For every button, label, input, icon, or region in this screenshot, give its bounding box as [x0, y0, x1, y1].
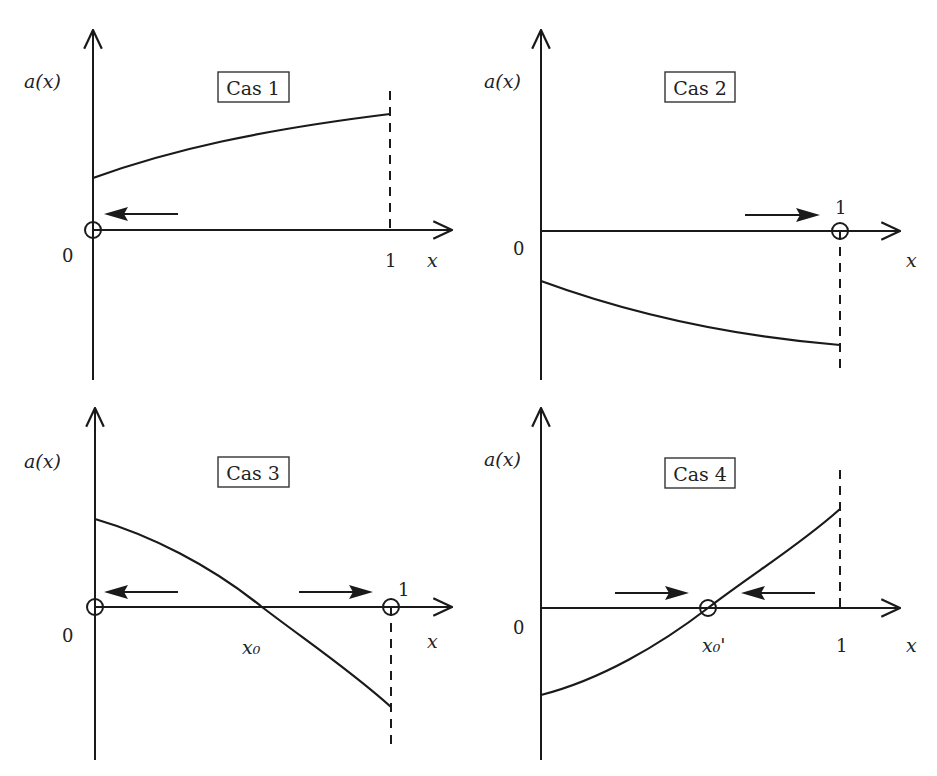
- case-title: Cas 3: [226, 462, 280, 484]
- x-axis-label: x: [427, 249, 438, 271]
- right-arrow-icon: [615, 586, 689, 600]
- x-axis-label: x: [906, 634, 917, 656]
- left-arrow-icon: [104, 585, 178, 599]
- panel-cas-3: Cas 3 a(x) 0 1 x₀ x: [24, 408, 452, 760]
- panel-cas-2: Cas 2 a(x) 0 1 x: [484, 30, 917, 380]
- a-of-x-curve: [93, 114, 390, 178]
- origin-label: 0: [513, 617, 524, 638]
- phase-diagram-figure: Cas 1 a(x) 0 1 x Cas 2 a(x) 0 1 x: [0, 0, 937, 776]
- a-of-x-curve: [541, 509, 840, 695]
- tick-one-label: 1: [385, 250, 396, 271]
- tick-one-label: 1: [836, 635, 847, 656]
- a-of-x-curve: [95, 519, 391, 707]
- origin-label: 0: [513, 238, 524, 259]
- left-arrow-icon: [104, 207, 178, 221]
- tick-one-label: 1: [398, 579, 409, 600]
- y-axis-label: a(x): [24, 70, 61, 92]
- y-axis-label: a(x): [484, 448, 521, 470]
- left-arrow-icon: [741, 586, 815, 600]
- right-arrow-icon: [745, 208, 820, 222]
- root-label: x₀: [242, 636, 261, 658]
- case-title: Cas 1: [226, 77, 280, 99]
- x-axis-label: x: [427, 630, 438, 652]
- case-title: Cas 2: [673, 77, 727, 99]
- case-title: Cas 4: [673, 463, 727, 485]
- y-axis-label: a(x): [484, 70, 521, 92]
- x-axis-label: x: [906, 249, 917, 271]
- panel-cas-1: Cas 1 a(x) 0 1 x: [24, 30, 452, 380]
- right-arrow-icon: [299, 585, 373, 599]
- y-axis-label: a(x): [24, 450, 61, 472]
- a-of-x-curve: [541, 281, 840, 345]
- root-label: x₀': [702, 634, 726, 656]
- tick-one-label: 1: [835, 197, 846, 218]
- origin-label: 0: [62, 625, 73, 646]
- origin-label: 0: [62, 245, 73, 266]
- panel-cas-4: Cas 4 a(x) 0 1 x₀' x: [484, 408, 917, 760]
